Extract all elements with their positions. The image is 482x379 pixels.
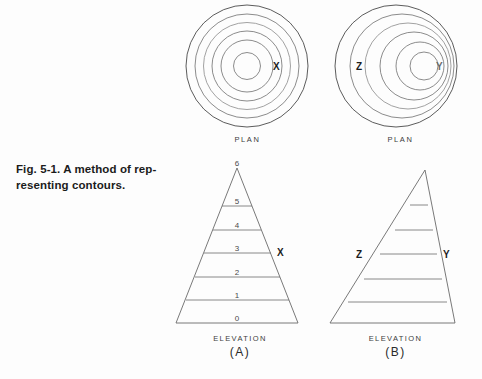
caption-line-1: Fig. 5-1. A method of rep- <box>16 162 166 178</box>
level-number-5: 5 <box>235 197 240 206</box>
figure-caption: Fig. 5-1. A method of rep- resenting con… <box>16 162 166 193</box>
contour-ring-outer <box>186 5 308 127</box>
plan-b-point-z: Z <box>356 61 362 72</box>
plan-a-point-x: X <box>273 61 280 72</box>
plan-a-panel: X PLAN <box>185 4 310 149</box>
plan-b-point-y: Y <box>436 61 443 72</box>
elevation-a-diagram: 6 5 4 3 2 1 0 X <box>165 160 315 332</box>
level-number-2: 2 <box>235 268 240 277</box>
contour-ring-5 <box>195 14 299 118</box>
level-number-4: 4 <box>235 221 240 230</box>
elevation-b-panel-id: (B) <box>318 345 473 359</box>
level-number-6: 6 <box>235 159 240 168</box>
elevation-b-panel: Z Y ELEVATION (B) <box>318 160 473 360</box>
plan-a-label: PLAN <box>185 135 310 144</box>
level-number-1: 1 <box>235 291 240 300</box>
elevation-a-label: ELEVATION <box>165 334 315 343</box>
contour-ring-inner <box>234 53 261 80</box>
figure-page: Fig. 5-1. A method of rep- resenting con… <box>0 0 482 379</box>
plan-b-diagram: Z Y <box>333 4 468 134</box>
level-number-3: 3 <box>235 244 240 253</box>
elevation-a-panel-id: (A) <box>165 345 315 359</box>
plan-b-panel: Z Y PLAN <box>333 4 468 149</box>
elevation-a-point-x: X <box>277 247 284 258</box>
triangle-b-outline <box>330 170 455 323</box>
contour-ring-inner <box>410 52 438 80</box>
contour-ring-3 <box>212 31 282 101</box>
elevation-b-point-z: Z <box>356 249 362 260</box>
plan-b-label: PLAN <box>333 135 468 144</box>
elevation-b-point-y: Y <box>443 249 450 260</box>
contour-ring-2 <box>221 40 273 92</box>
level-number-0: 0 <box>235 314 240 323</box>
caption-line-2: resenting contours. <box>16 178 166 194</box>
elevation-b-label: ELEVATION <box>318 334 473 343</box>
elevation-a-panel: 6 5 4 3 2 1 0 X ELEVATION (A) <box>165 160 315 360</box>
elevation-b-diagram: Z Y <box>318 160 473 332</box>
plan-a-diagram: X <box>185 4 310 134</box>
